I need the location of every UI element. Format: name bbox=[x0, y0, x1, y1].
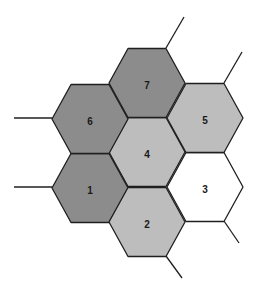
hexagon-label: 1 bbox=[87, 185, 93, 196]
connector-line-hex-3 bbox=[224, 221, 239, 243]
hexagon-label: 5 bbox=[202, 115, 208, 126]
connector-line-hex-7 bbox=[166, 17, 184, 48]
hexagon-cluster-diagram: 1234567 bbox=[0, 0, 258, 288]
hexagon-label: 7 bbox=[144, 80, 150, 91]
hexagon-label: 3 bbox=[202, 184, 208, 195]
connector-line-hex-2 bbox=[166, 256, 182, 278]
hexagon-label: 4 bbox=[144, 149, 150, 160]
hexagon-label: 6 bbox=[87, 116, 93, 127]
hexagon-label: 2 bbox=[144, 219, 150, 230]
hexagon-group: 1234567 bbox=[52, 49, 243, 257]
connector-line-hex-5 bbox=[224, 52, 242, 83]
